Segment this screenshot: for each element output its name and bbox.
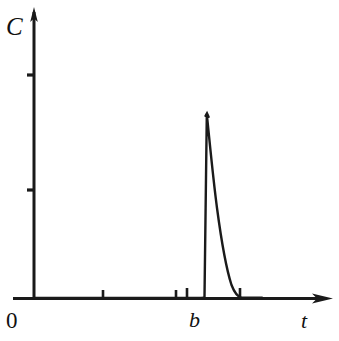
y-axis-label: C	[6, 14, 23, 39]
plot-canvas	[0, 0, 339, 341]
concentration-curve	[34, 115, 262, 299]
concentration-time-plot: C t b 0	[0, 0, 339, 341]
origin-label: 0	[6, 309, 18, 332]
x-axis-label: t	[301, 310, 307, 332]
x-axis-marker-label-b: b	[189, 309, 200, 331]
